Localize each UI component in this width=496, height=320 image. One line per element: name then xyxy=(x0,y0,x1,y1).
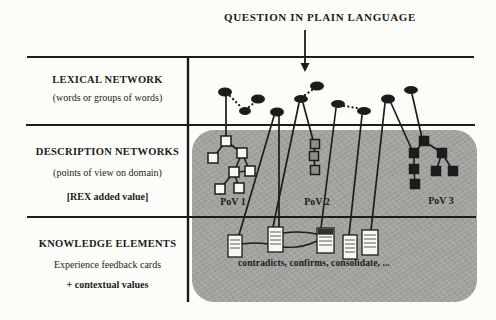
row-subtext: (words or groups of words) xyxy=(27,92,188,103)
row-heading: DESCRIPTION NETWORKS xyxy=(27,146,188,157)
pov2-label: PoV 2 xyxy=(295,196,339,207)
row-subtext-contextual-values: + contextual values xyxy=(27,279,188,290)
row-description-networks: DESCRIPTION NETWORKS (points of view on … xyxy=(27,146,188,202)
row-heading: KNOWLEDGE ELEMENTS xyxy=(27,238,188,249)
row-knowledge-elements: KNOWLEDGE ELEMENTS Experience feedback c… xyxy=(27,238,188,290)
row-heading: LEXICAL NETWORK xyxy=(27,74,188,85)
pov3-label: PoV 3 xyxy=(419,195,463,206)
figure-rex-architecture: QUESTION IN PLAIN LANGUAGE LEXICAL NETWO… xyxy=(0,0,496,320)
pov1-label: PoV 1 xyxy=(211,196,255,207)
row-subtext: Experience feedback cards xyxy=(27,259,188,270)
text-layer: LEXICAL NETWORK (words or groups of word… xyxy=(0,0,496,320)
row-lexical-network: LEXICAL NETWORK (words or groups of word… xyxy=(27,74,188,103)
card-relations-caption: contradicts, confirms, consolidate, ... xyxy=(223,258,405,268)
row-subtext: (points of view on domain) xyxy=(27,167,188,178)
row-subtext-rex-added-value: [REX added value] xyxy=(27,191,188,202)
